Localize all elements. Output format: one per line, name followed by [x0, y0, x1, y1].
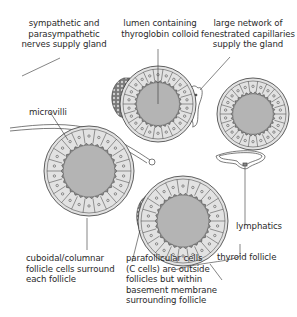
label-microvilli: microvilli	[29, 107, 67, 118]
follicle-left	[44, 126, 134, 216]
label-lymphatics: lymphatics	[236, 221, 282, 232]
thyroid-follicle-diagram: sympathetic and parasympathetic nerves s…	[0, 0, 297, 317]
label-capillaries: large network of fenestrated capillaries…	[198, 18, 297, 50]
label-nerves: sympathetic and parasympathetic nerves s…	[14, 18, 114, 50]
label-parafollicular: parafollicular cells (C cells) are outsi…	[126, 253, 217, 306]
label-thyroid-follicle: thyroid follicle	[217, 252, 276, 263]
lymphatic-vessel	[216, 151, 265, 169]
label-lumen: lumen containing thyroglobin colloid	[110, 18, 210, 39]
follicle-right	[217, 78, 289, 150]
label-follicle-cells: cuboidal/columnar follicle cells surroun…	[26, 253, 115, 285]
